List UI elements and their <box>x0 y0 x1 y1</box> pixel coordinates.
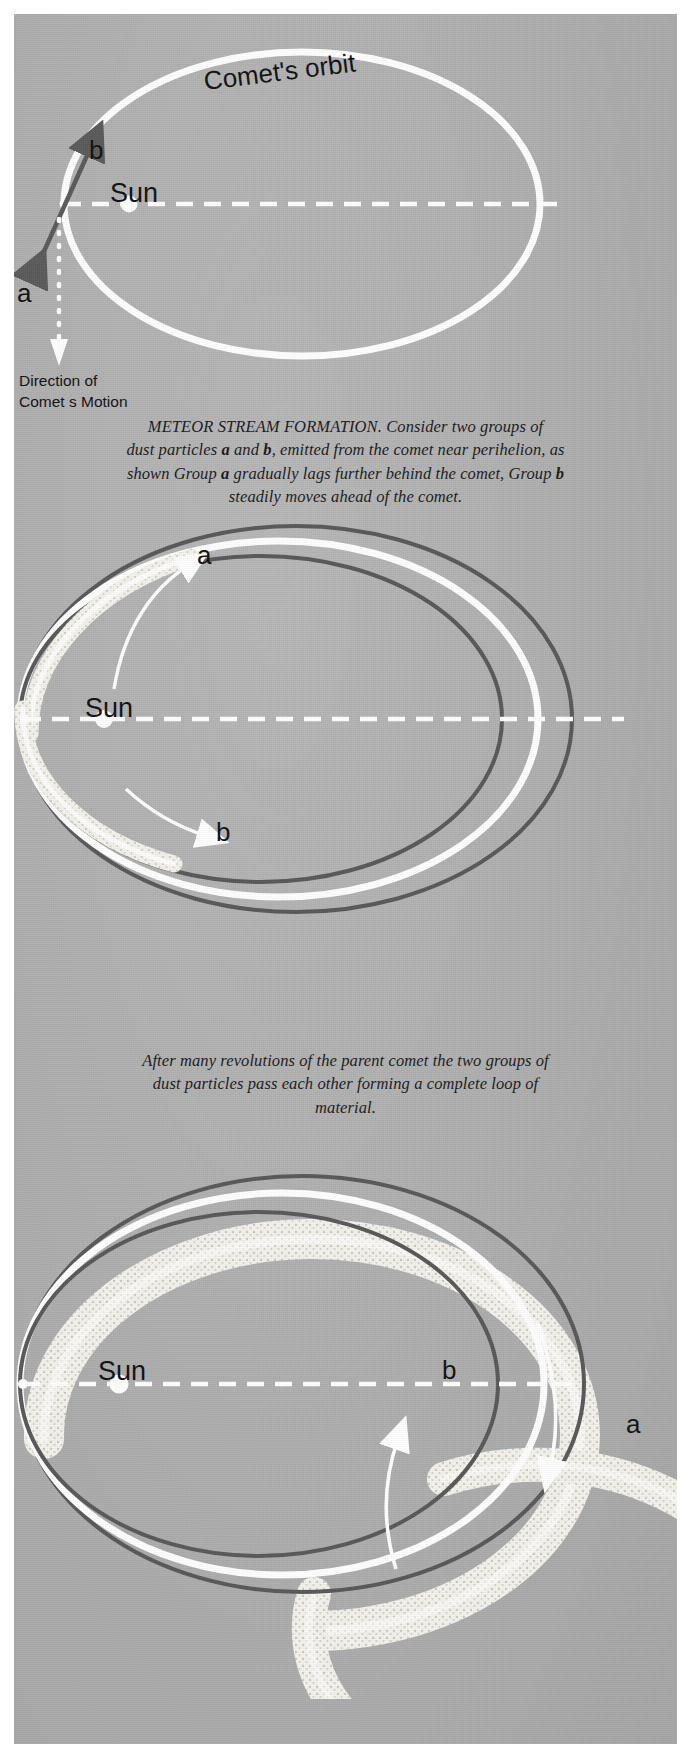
caption1-line2-c: and <box>230 440 264 459</box>
caption1-line2-a: dust particles <box>126 440 221 459</box>
caption1-line3-a: shown Group <box>127 464 221 483</box>
caption1-line1-rest: Consider two groups of <box>382 417 543 436</box>
figure-plate: Comet's orbit Sun b a Direction of Comet… <box>14 14 677 1744</box>
comet-orbit-panel: Comet's orbit Sun b a Direction of Comet… <box>14 14 677 414</box>
sun-label: Sun <box>85 695 133 722</box>
dust-stream-b-arc <box>23 709 174 864</box>
group-b-label: b <box>442 1357 456 1383</box>
two-groups-panel: Sun a b <box>14 519 677 1029</box>
caption1-line2-e: , emitted from the comet near perihelion… <box>272 440 565 459</box>
sun-label: Sun <box>110 180 158 207</box>
group-a-label: a <box>197 542 211 568</box>
group-b-label: b <box>89 137 103 163</box>
figure-page: Comet's orbit Sun b a Direction of Comet… <box>0 0 689 1752</box>
caption-meteor-stream-formation: METEOR STREAM FORMATION. Consider two gr… <box>14 415 677 509</box>
group-b-label: b <box>216 819 230 845</box>
caption2-line3: material. <box>315 1098 376 1117</box>
direction-of-motion-label: Direction of Comet s Motion <box>19 371 128 412</box>
caption1-lead: METEOR STREAM FORMATION. <box>148 417 382 436</box>
caption1-line4: steadily moves ahead of the comet. <box>229 487 462 506</box>
caption1-line3-c: gradually lags further behind the comet,… <box>229 464 555 483</box>
direction-of-motion-arrowhead <box>50 339 68 366</box>
sun-label: Sun <box>98 1358 146 1385</box>
caption-complete-loop: After many revolutions of the parent com… <box>14 1049 677 1119</box>
panel3-svg <box>14 1139 677 1699</box>
caption2-line2: dust particles pass each other forming a… <box>153 1074 539 1093</box>
perihelion-point <box>18 1379 28 1389</box>
arrow-to-group-b <box>386 1439 398 1569</box>
caption1-line3-d: b <box>556 464 564 483</box>
panel2-svg <box>14 519 677 1029</box>
perihelion-point <box>20 715 29 724</box>
group-a-label: a <box>17 280 31 306</box>
arrow-to-group-b <box>126 789 207 836</box>
ejection-double-arrow <box>37 140 94 267</box>
caption1-line2-d: b <box>263 440 271 459</box>
complete-loop-panel: Sun a b <box>14 1139 677 1699</box>
caption2-line1: After many revolutions of the parent com… <box>142 1051 549 1070</box>
caption1-line2-b: a <box>221 440 229 459</box>
group-a-label: a <box>626 1411 640 1437</box>
